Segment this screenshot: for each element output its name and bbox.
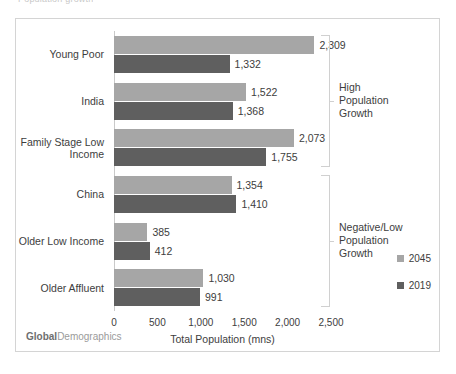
x-tick-label: 500 — [149, 317, 166, 328]
bar-value-label: 1,522 — [251, 83, 277, 101]
annotation-bracket-tick — [329, 101, 334, 102]
bar-2045[interactable] — [114, 36, 314, 54]
watermark: GlobalDemographics — [26, 331, 122, 342]
bar-2019[interactable] — [114, 148, 266, 166]
x-tick-label: 1,500 — [232, 317, 257, 328]
bar-2045[interactable] — [114, 223, 147, 241]
legend-item[interactable]: 2045 — [397, 253, 431, 264]
bar-2019[interactable] — [114, 102, 233, 120]
bar-value-label: 991 — [205, 288, 223, 306]
bar-2045[interactable] — [114, 129, 294, 147]
category-label: Older Low Income — [9, 235, 104, 247]
bar-value-label: 412 — [155, 242, 173, 260]
category-label: China — [9, 188, 104, 200]
bar-2019[interactable] — [114, 242, 150, 260]
bar-2019[interactable] — [114, 195, 236, 213]
clipped-header-text: Population growth — [18, 0, 93, 6]
chart-legend: 20452019 — [397, 253, 431, 307]
annotation-bracket — [321, 35, 330, 167]
category-label: Family Stage Low Income — [9, 136, 104, 160]
legend-item[interactable]: 2019 — [397, 280, 431, 291]
bar-group: Young Poor2,3091,332 — [114, 36, 331, 73]
bar-2019[interactable] — [114, 55, 230, 73]
bar-2045[interactable] — [114, 269, 203, 287]
watermark-strong: Global — [26, 331, 57, 342]
annotation-bracket — [321, 175, 330, 307]
legend-label: 2019 — [409, 280, 431, 291]
watermark-normal: Demographics — [57, 331, 121, 342]
annotation-bracket-tick — [329, 241, 334, 242]
bar-value-label: 1,368 — [238, 102, 264, 120]
legend-swatch-icon — [397, 282, 404, 289]
chart-frame: Young Poor2,3091,332India1,5221,368Famil… — [15, 18, 440, 352]
legend-swatch-icon — [397, 255, 404, 262]
x-tick-label: 1,000 — [188, 317, 213, 328]
category-label: Older Affluent — [9, 282, 104, 294]
x-tick-label: 2,000 — [275, 317, 300, 328]
bar-value-label: 1,354 — [237, 176, 263, 194]
bar-value-label: 1,755 — [271, 148, 297, 166]
bar-value-label: 1,332 — [235, 55, 261, 73]
x-tick-label: 2,500 — [318, 317, 343, 328]
bar-group: Family Stage Low Income2,0731,755 — [114, 129, 331, 166]
x-axis-title: Total Population (mns) — [114, 333, 331, 345]
category-label: Young Poor — [9, 48, 104, 60]
x-axis-ticks: 05001,0001,5002,0002,500 — [114, 317, 331, 333]
annotation-text: High Population Growth — [339, 81, 419, 120]
bar-2019[interactable] — [114, 288, 200, 306]
bar-group: China1,3541,410 — [114, 176, 331, 213]
x-tick-label: 0 — [111, 317, 117, 328]
legend-label: 2045 — [409, 253, 431, 264]
bar-value-label: 385 — [152, 223, 170, 241]
category-label: India — [9, 95, 104, 107]
bar-2045[interactable] — [114, 83, 246, 101]
bar-group: Older Affluent1,030991 — [114, 269, 331, 306]
bar-group: India1,5221,368 — [114, 83, 331, 120]
bar-2045[interactable] — [114, 176, 232, 194]
bar-value-label: 1,410 — [241, 195, 267, 213]
bar-group: Older Low Income385412 — [114, 223, 331, 260]
plot-area: Young Poor2,3091,332India1,5221,368Famil… — [114, 31, 331, 311]
bar-value-label: 1,030 — [208, 269, 234, 287]
